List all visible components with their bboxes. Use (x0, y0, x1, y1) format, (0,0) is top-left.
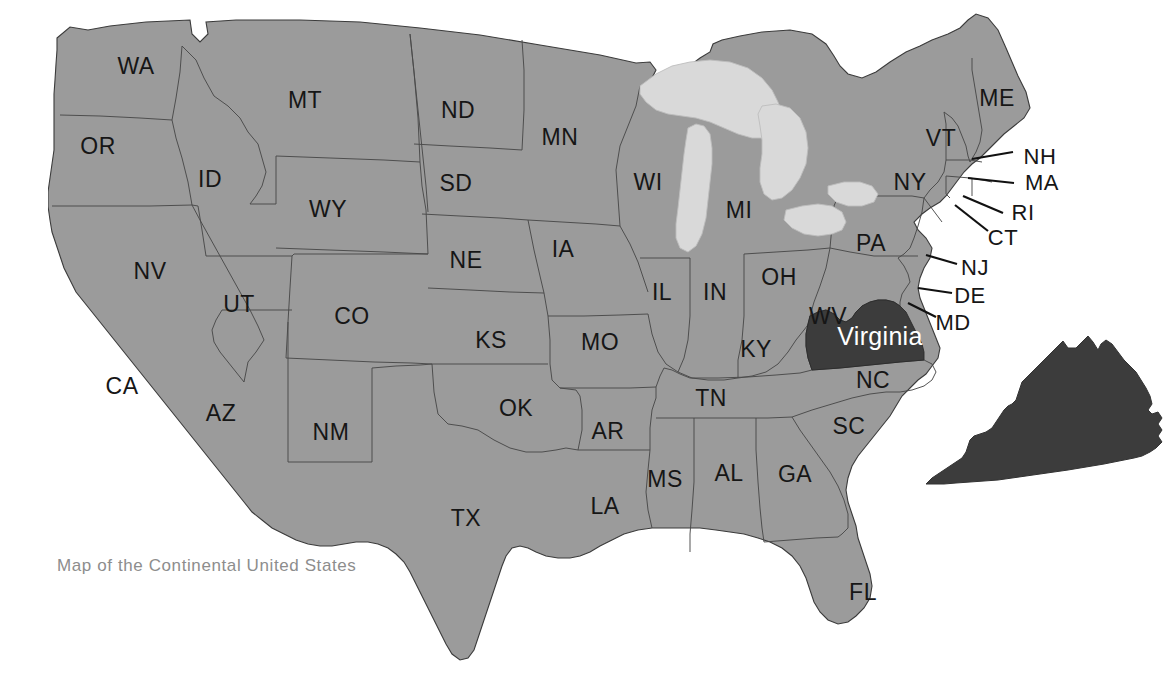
callout-label-md[interactable]: MD (935, 310, 970, 336)
state-label-mt[interactable]: MT (288, 87, 322, 114)
us-map-figure: WAORIDMTWYNDSDNEMNIAWIMINVUTCOKSMOILINOH… (0, 0, 1175, 673)
state-label-vt[interactable]: VT (926, 125, 956, 152)
state-label-ar[interactable]: AR (592, 418, 625, 445)
state-label-ny[interactable]: NY (894, 169, 927, 196)
state-label-nm[interactable]: NM (313, 419, 350, 446)
state-label-ga[interactable]: GA (778, 461, 812, 488)
state-label-sd[interactable]: SD (440, 170, 473, 197)
virginia-inset[interactable] (926, 336, 1162, 484)
leader-line-de (918, 288, 952, 293)
state-label-me[interactable]: ME (979, 85, 1015, 112)
state-label-wi[interactable]: WI (633, 169, 662, 196)
state-label-pa[interactable]: PA (856, 230, 886, 257)
state-label-mi[interactable]: MI (726, 197, 753, 224)
state-label-tx[interactable]: TX (451, 505, 481, 532)
leader-line-nj (926, 255, 957, 264)
state-label-il[interactable]: IL (652, 279, 672, 306)
state-label-nv[interactable]: NV (134, 258, 167, 285)
virginia-inset-shape[interactable] (926, 336, 1162, 484)
state-label-mo[interactable]: MO (581, 329, 619, 356)
state-label-ut[interactable]: UT (223, 291, 255, 318)
state-label-or[interactable]: OR (80, 133, 116, 160)
leader-line-ct (955, 205, 988, 231)
virginia-highlight-label: Virginia (837, 322, 922, 351)
callout-label-ri[interactable]: RI (1012, 200, 1035, 226)
pacific-ocean-mask (0, 0, 56, 358)
callout-label-de[interactable]: DE (954, 283, 986, 309)
callout-label-ct[interactable]: CT (988, 225, 1018, 251)
state-label-ks[interactable]: KS (475, 327, 507, 354)
leader-line-ri (963, 196, 1003, 213)
callout-label-nh[interactable]: NH (1024, 144, 1057, 170)
state-label-ky[interactable]: KY (740, 336, 772, 363)
state-label-ia[interactable]: IA (552, 236, 575, 263)
state-label-nd[interactable]: ND (441, 97, 475, 124)
state-label-mn[interactable]: MN (542, 124, 579, 151)
state-label-ne[interactable]: NE (450, 247, 483, 274)
state-label-la[interactable]: LA (590, 493, 619, 520)
state-label-id[interactable]: ID (198, 166, 222, 193)
state-label-ca[interactable]: CA (106, 373, 139, 400)
state-label-wa[interactable]: WA (117, 53, 154, 80)
state-label-az[interactable]: AZ (206, 400, 236, 427)
state-label-ms[interactable]: MS (647, 466, 683, 493)
state-label-fl[interactable]: FL (849, 579, 877, 606)
state-label-ok[interactable]: OK (499, 395, 533, 422)
callout-label-nj[interactable]: NJ (961, 255, 989, 281)
state-label-al[interactable]: AL (714, 460, 743, 487)
state-label-wy[interactable]: WY (309, 196, 347, 223)
state-label-sc[interactable]: SC (833, 413, 866, 440)
map-caption: Map of the Continental United States (57, 556, 356, 576)
state-label-co[interactable]: CO (334, 303, 370, 330)
state-label-tn[interactable]: TN (695, 385, 727, 412)
state-label-in[interactable]: IN (703, 279, 727, 306)
callout-label-ma[interactable]: MA (1025, 170, 1059, 196)
state-label-nc[interactable]: NC (856, 367, 890, 394)
state-label-oh[interactable]: OH (761, 264, 797, 291)
